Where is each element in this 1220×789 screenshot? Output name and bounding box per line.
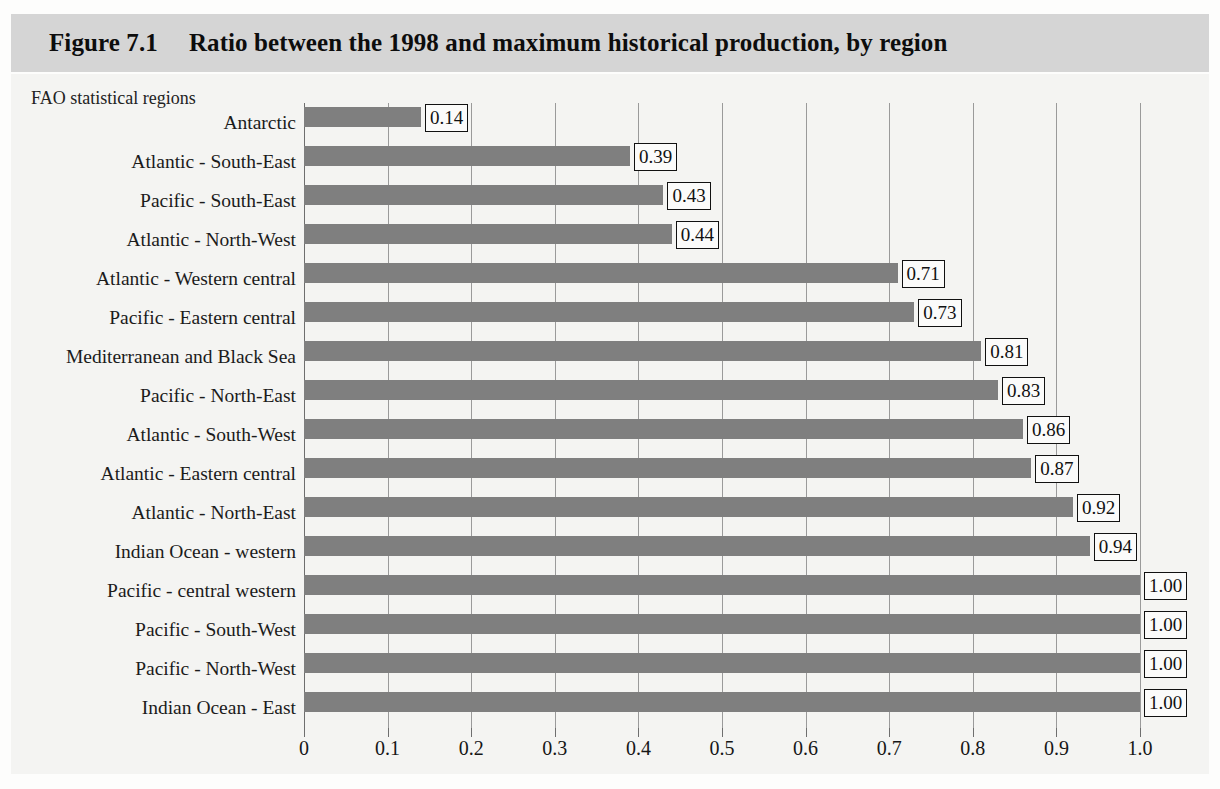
- x-axis-label-1.0: 1.0: [1128, 737, 1153, 760]
- figure-title: Ratio between the 1998 and maximum histo…: [189, 29, 948, 57]
- category-label-atlantic-north-west: Atlantic - North-West: [126, 229, 296, 251]
- x-tick-1.0: [1140, 728, 1141, 737]
- x-tick-0.3: [555, 728, 556, 737]
- category-label-mediterranean-and-black-sea: Mediterranean and Black Sea: [66, 346, 296, 368]
- bar: [304, 614, 1140, 634]
- bar: [304, 224, 672, 244]
- category-label-atlantic-eastern-central: Atlantic - Eastern central: [101, 463, 296, 485]
- bar-row: Pacific - central western1.00: [0, 571, 1220, 610]
- category-label-pacific-central-western: Pacific - central western: [107, 580, 296, 602]
- x-axis-label-0.3: 0.3: [542, 737, 567, 760]
- bar: [304, 380, 998, 400]
- x-axis-tick-labels: 00.10.20.30.40.50.60.70.80.91.0: [304, 737, 1140, 767]
- bar-row: Indian Ocean - western0.94: [0, 532, 1220, 571]
- bar-row: Atlantic - Western central0.71: [0, 259, 1220, 298]
- bar-row: Atlantic - North-East0.92: [0, 493, 1220, 532]
- x-axis-label-0.9: 0.9: [1044, 737, 1069, 760]
- bar: [304, 575, 1140, 595]
- bar-track: 0.44: [304, 224, 1140, 244]
- bar-value-label: 0.44: [676, 221, 719, 249]
- bar-row: Indian Ocean - East1.00: [0, 688, 1220, 727]
- x-axis-label-0.1: 0.1: [375, 737, 400, 760]
- bar-value-label: 1.00: [1144, 689, 1187, 717]
- bar-row: Atlantic - North-West0.44: [0, 220, 1220, 259]
- category-label-atlantic-south-east: Atlantic - South-East: [131, 151, 296, 173]
- bar: [304, 146, 630, 166]
- x-tick-0.6: [806, 728, 807, 737]
- bar-row: Pacific - North-West1.00: [0, 649, 1220, 688]
- bar-row: Pacific - Eastern central0.73: [0, 298, 1220, 337]
- bar-value-label: 0.73: [918, 299, 961, 327]
- bar: [304, 458, 1031, 478]
- x-axis-label-0.7: 0.7: [877, 737, 902, 760]
- category-label-antarctic: Antarctic: [223, 112, 296, 134]
- bar-row: Pacific - North-East0.83: [0, 376, 1220, 415]
- bar-value-label: 0.92: [1077, 494, 1120, 522]
- bar-track: 0.14: [304, 107, 1140, 127]
- bar-value-label: 1.00: [1144, 572, 1187, 600]
- x-tick-0.1: [388, 728, 389, 737]
- x-tick-0.5: [722, 728, 723, 737]
- x-axis-label-0.2: 0.2: [459, 737, 484, 760]
- x-axis-label-0: 0: [299, 737, 309, 760]
- category-label-pacific-north-west: Pacific - North-West: [135, 658, 296, 680]
- bar-row: Atlantic - South-East0.39: [0, 142, 1220, 181]
- x-axis-label-0.5: 0.5: [710, 737, 735, 760]
- x-tick-0.8: [973, 728, 974, 737]
- bar: [304, 302, 914, 322]
- bar-value-label: 0.14: [425, 104, 468, 132]
- x-tick-0.2: [471, 728, 472, 737]
- bar-track: 0.71: [304, 263, 1140, 283]
- x-tick-0.7: [889, 728, 890, 737]
- bar-track: 0.81: [304, 341, 1140, 361]
- bar: [304, 536, 1090, 556]
- bar: [304, 692, 1140, 712]
- bar-track: 1.00: [304, 692, 1140, 712]
- category-label-atlantic-western-central: Atlantic - Western central: [96, 268, 296, 290]
- bar-track: 0.87: [304, 458, 1140, 478]
- x-axis-label-0.8: 0.8: [960, 737, 985, 760]
- bar-track: 0.83: [304, 380, 1140, 400]
- bar-track: 1.00: [304, 653, 1140, 673]
- bar-value-label: 1.00: [1144, 650, 1187, 678]
- x-tick-0: [304, 728, 305, 737]
- bar: [304, 653, 1140, 673]
- figure-number: Figure 7.1: [49, 29, 158, 57]
- figure-title-band: Figure 7.1 Ratio between the 1998 and ma…: [11, 14, 1209, 72]
- bar: [304, 185, 663, 205]
- x-axis-label-0.6: 0.6: [793, 737, 818, 760]
- category-label-indian-ocean-east: Indian Ocean - East: [142, 697, 296, 719]
- bar-track: 1.00: [304, 614, 1140, 634]
- bar-value-label: 0.81: [985, 338, 1028, 366]
- x-tick-0.9: [1056, 728, 1057, 737]
- category-label-indian-ocean-western: Indian Ocean - western: [115, 541, 296, 563]
- bar-value-label: 0.83: [1002, 377, 1045, 405]
- bar: [304, 497, 1073, 517]
- bar-row: Pacific - South-West1.00: [0, 610, 1220, 649]
- bar-track: 0.92: [304, 497, 1140, 517]
- bar: [304, 263, 898, 283]
- bar-rows: Antarctic0.14Atlantic - South-East0.39Pa…: [0, 103, 1220, 727]
- bar-value-label: 0.71: [902, 260, 945, 288]
- bar-value-label: 0.39: [634, 143, 677, 171]
- bar-value-label: 0.94: [1094, 533, 1137, 561]
- category-label-pacific-south-west: Pacific - South-West: [135, 619, 296, 641]
- bar-track: 0.39: [304, 146, 1140, 166]
- bar-track: 1.00: [304, 575, 1140, 595]
- x-tick-0.4: [638, 728, 639, 737]
- bar-track: 0.86: [304, 419, 1140, 439]
- bar: [304, 341, 981, 361]
- bar-value-label: 1.00: [1144, 611, 1187, 639]
- bar-track: 0.73: [304, 302, 1140, 322]
- category-label-pacific-north-east: Pacific - North-East: [140, 385, 296, 407]
- bar-row: Antarctic0.14: [0, 103, 1220, 142]
- figure-container: Figure 7.1 Ratio between the 1998 and ma…: [0, 0, 1220, 789]
- bar: [304, 419, 1023, 439]
- category-label-atlantic-north-east: Atlantic - North-East: [131, 502, 296, 524]
- bar-row: Atlantic - Eastern central0.87: [0, 454, 1220, 493]
- bar: [304, 107, 421, 127]
- bar-row: Atlantic - South-West0.86: [0, 415, 1220, 454]
- category-label-pacific-south-east: Pacific - South-East: [140, 190, 296, 212]
- bar-track: 0.94: [304, 536, 1140, 556]
- bar-value-label: 0.86: [1027, 416, 1070, 444]
